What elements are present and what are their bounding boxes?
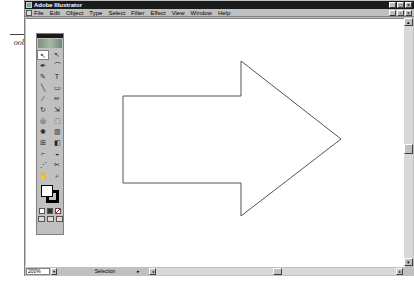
tool-grid: ↖↖✒⌒✎T╲▭∕✏↻⇲◎⬚✺▥⊞◧⌐◒⋰✂✋⌕ <box>37 49 63 182</box>
toolbox-title-bar[interactable] <box>37 34 63 38</box>
color-mode-buttons <box>37 208 63 214</box>
free-transform-tool-icon[interactable]: ⬚ <box>51 116 63 126</box>
paintbrush-tool-icon[interactable]: ∕ <box>37 94 49 104</box>
paint-bucket-tool-icon[interactable]: ◒ <box>51 149 63 159</box>
gradient-button[interactable] <box>47 208 53 214</box>
type-tool-icon[interactable]: T <box>51 72 63 82</box>
scale-tool-icon[interactable]: ⇲ <box>51 105 63 115</box>
screen-mode-buttons <box>37 216 63 222</box>
graph-tool-icon[interactable]: ▥ <box>51 127 63 137</box>
pen-tool-icon[interactable]: ✒ <box>37 61 49 71</box>
hand-tool-icon[interactable]: ✋ <box>37 171 49 181</box>
rotate-tool-icon[interactable]: ↻ <box>37 105 49 115</box>
mesh-tool-icon[interactable]: ⊞ <box>37 138 49 148</box>
pencil-tool-icon[interactable]: ✏ <box>51 94 63 104</box>
symbol-sprayer-tool-icon[interactable]: ✺ <box>37 127 49 137</box>
adobe-logo[interactable] <box>38 39 62 48</box>
color-button[interactable] <box>39 208 45 214</box>
gradient-tool-icon[interactable]: ◧ <box>51 138 63 148</box>
toolbox-palette: ↖↖✒⌒✎T╲▭∕✏↻⇲◎⬚✺▥⊞◧⌐◒⋰✂✋⌕ <box>36 33 64 235</box>
fill-stroke-controls <box>39 185 61 205</box>
scissors-tool-icon[interactable]: ✂ <box>51 160 63 170</box>
full-screen-mode-button[interactable] <box>56 216 63 222</box>
warp-tool-icon[interactable]: ◎ <box>37 116 49 126</box>
standard-screen-mode-button[interactable] <box>38 216 45 222</box>
arrow-polygon[interactable] <box>123 61 341 216</box>
add-anchor-tool-icon[interactable]: ✎ <box>37 72 49 82</box>
selection-tool-icon[interactable]: ↖ <box>37 50 49 60</box>
eyedropper-tool-icon[interactable]: ⌐ <box>37 149 49 159</box>
rectangle-tool-icon[interactable]: ▭ <box>51 83 63 93</box>
lasso-tool-icon[interactable]: ⌒ <box>51 61 63 71</box>
direct-selection-tool-icon[interactable]: ↖ <box>51 50 63 60</box>
full-screen-menu-mode-button[interactable] <box>47 216 54 222</box>
blend-tool-icon[interactable]: ⋰ <box>37 160 49 170</box>
line-tool-icon[interactable]: ╲ <box>37 83 49 93</box>
zoom-tool-icon[interactable]: ⌕ <box>51 171 63 181</box>
none-button[interactable] <box>55 208 61 214</box>
fill-swatch[interactable] <box>41 185 53 197</box>
